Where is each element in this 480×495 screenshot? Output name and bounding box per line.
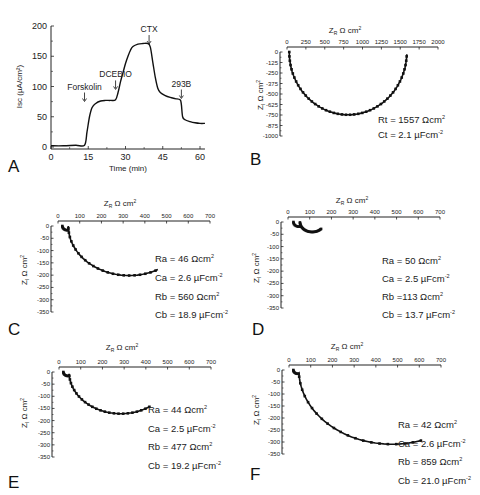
data-point (353, 113, 356, 116)
fit-parameter: Ca = 2.6 µFcm-2 (398, 438, 466, 449)
x-axis-title: ZR Ω cm2 (331, 341, 364, 352)
x-tick-label: 600 (414, 357, 425, 363)
y-tick-label: -375 (266, 81, 279, 87)
y-tick-label: -350 (267, 305, 280, 311)
annotation-ctx: CTX (141, 24, 158, 34)
data-point (394, 88, 397, 91)
data-point (78, 395, 81, 398)
y-tick-label: -150 (267, 256, 280, 262)
data-point (400, 76, 403, 79)
x-tick-label: 600 (183, 213, 194, 219)
data-point (290, 68, 293, 71)
y-tick-label: 0 (47, 369, 51, 375)
panel-letter: A (8, 157, 20, 176)
x-tick-label: 500 (392, 209, 403, 215)
data-point (405, 55, 408, 58)
panel-letter: C (8, 320, 20, 339)
data-point (131, 411, 134, 414)
panel-letter: D (252, 320, 264, 339)
x-axis-title: ZR Ω cm2 (104, 198, 137, 209)
data-point (67, 227, 70, 230)
x-tick-label: 500 (320, 39, 331, 45)
data-point (304, 94, 307, 97)
x-axis-title: ZR Ω cm2 (106, 342, 139, 353)
data-point (84, 401, 87, 404)
x-tick-label: 300 (118, 213, 129, 219)
data-point (289, 64, 292, 67)
y-tick-label: 0 (275, 49, 279, 55)
data-point (321, 107, 324, 110)
fit-parameter: Ra = 50 Ωcm2 (382, 255, 441, 266)
data-point (326, 422, 329, 425)
y-tick-label: -250 (267, 280, 280, 286)
data-point (298, 375, 301, 378)
x-tick-label: 2000 (431, 39, 445, 45)
data-point (69, 236, 72, 239)
data-point (295, 80, 298, 83)
y-tick-label: 150 (32, 51, 47, 61)
x-tick-label: 300 (348, 209, 359, 215)
y-tick-label: -625 (266, 102, 279, 108)
data-point (361, 112, 364, 115)
y-tick-label: -500 (266, 91, 279, 97)
fit-parameter: Ra = 44 Ωcm2 (148, 404, 207, 415)
data-point (405, 59, 408, 62)
y-tick-label: -300 (268, 439, 281, 445)
y-tick-label: -250 (268, 427, 281, 433)
data-point (354, 437, 357, 440)
y-tick-label: -100 (268, 391, 281, 397)
data-point (97, 267, 100, 270)
x-axis-title: ZR Ω cm2 (329, 25, 362, 36)
data-point (297, 84, 300, 87)
fit-parameter: Cb = 21.0 µFcm-2 (398, 475, 471, 486)
data-point (397, 84, 400, 87)
fit-parameter: Rb = 560 Ωcm2 (155, 291, 219, 302)
data-point (301, 388, 304, 391)
y-tick-label: 0 (277, 367, 281, 373)
data-point (91, 406, 94, 409)
y-tick-label: -250 (266, 70, 279, 76)
x-tick-label: 0 (56, 213, 60, 219)
data-point (311, 407, 314, 410)
data-point (297, 372, 300, 375)
panel-d-nyquist-plot: 01002003004005006007000-50-100-150-200-2… (251, 195, 455, 339)
data-point (70, 382, 73, 385)
fit-parameter: Rb = 859 Ωcm2 (398, 456, 462, 467)
x-tick-label: 100 (76, 359, 87, 365)
x-tick-label: 400 (140, 213, 151, 219)
data-point (303, 395, 306, 398)
fit-parameter: Rb = 477 Ωcm2 (148, 441, 212, 452)
figure-canvas: 015304560050100150200Time (min)Isc (µA/c… (0, 0, 480, 495)
x-tick-label: 0 (285, 39, 289, 45)
x-tick-label: 700 (435, 209, 446, 215)
fit-parameter: Rt = 1557 Ωcm2 (378, 114, 445, 125)
fit-parameter: Cb = 19.2 µFcm-2 (148, 460, 221, 471)
y-axis-title: ZI Ω cm2 (19, 255, 30, 285)
x-tick-label: 0 (57, 359, 61, 365)
annotation-dcebio: DCEBIO (99, 69, 132, 79)
y-tick-label: -50 (41, 381, 50, 387)
panel-letter: B (250, 150, 261, 169)
x-tick-label: 500 (393, 357, 404, 363)
data-point (88, 262, 91, 265)
x-tick-label: 600 (413, 209, 424, 215)
panel-letter: E (8, 473, 19, 492)
data-point (389, 94, 392, 97)
panel-c-nyquist-plot: 01002003004005006007000-50-100-150-200-2… (8, 198, 228, 339)
data-point (71, 385, 74, 388)
data-point (383, 100, 386, 103)
data-point (386, 97, 389, 100)
y-tick-label: 0 (276, 219, 280, 225)
data-point (136, 410, 139, 413)
x-tick-label: 400 (370, 209, 381, 215)
x-tick-label: 100 (75, 213, 86, 219)
x-tick-label: 0 (286, 209, 290, 215)
data-point (95, 407, 98, 410)
data-point (345, 113, 348, 116)
data-point (307, 97, 310, 100)
x-tick-label: 200 (327, 357, 338, 363)
x-tick-label: 30 (120, 152, 130, 162)
data-point (292, 72, 295, 75)
y-tick-label: -100 (38, 393, 51, 399)
y-tick-label: -50 (270, 231, 279, 237)
